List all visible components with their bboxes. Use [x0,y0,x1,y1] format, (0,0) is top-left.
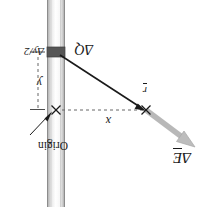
charge-element-block [47,47,65,57]
y-distance-label: y [37,77,42,89]
r-vector-label: r [143,85,147,97]
r-vector-symbol: r [143,85,147,97]
diagram-canvas [0,0,208,207]
delta-E-label: ΔE [173,150,191,166]
delta-y-over-2-label: Δy/2 [24,46,44,57]
charged-rod [47,0,65,207]
physics-diagram: ΔE Origin x r y ΔQ Δy/2 [0,0,208,207]
delta-E-vector-symbol: E [173,150,182,166]
x-distance-label: x [106,115,111,127]
delta-Q-label: ΔQ [75,42,93,56]
r-vector-arrow [60,55,146,111]
delta-E-arrow [146,110,195,147]
origin-label: Origin [38,140,68,152]
